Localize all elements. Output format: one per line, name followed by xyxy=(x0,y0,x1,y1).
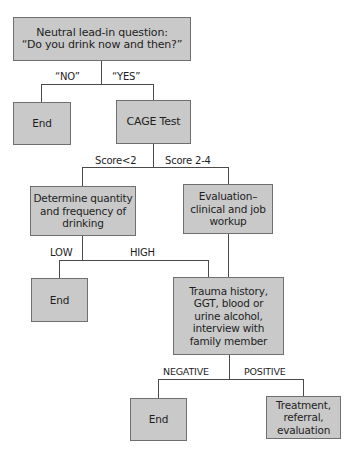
connector-to-end-negative xyxy=(158,379,159,398)
connector-evaluation-to-trauma xyxy=(228,234,229,277)
connector-leadin-down xyxy=(101,61,102,84)
connector-to-treatment xyxy=(303,379,304,396)
connector-to-end-low xyxy=(59,260,60,278)
edge-label-low: LOW xyxy=(50,247,72,259)
node-end-no: End xyxy=(13,102,71,145)
edge-label-positive: POSITIVE xyxy=(244,366,286,378)
edge-label-high: HIGH xyxy=(130,247,155,259)
connector-leadin-split xyxy=(41,84,154,85)
connector-trauma-down xyxy=(229,355,230,379)
connector-cage-split xyxy=(82,167,229,168)
node-evaluation-text: Evaluation– clinical and job workup xyxy=(190,190,266,228)
edge-label-yes: “YES” xyxy=(112,71,140,83)
node-end-negative: End xyxy=(130,398,187,441)
node-end-low-text: End xyxy=(50,294,69,307)
connector-to-cage xyxy=(153,84,154,100)
connector-to-end-no xyxy=(41,84,42,102)
node-determine-quantity: Determine quantity and frequency of drin… xyxy=(30,186,136,236)
edge-label-score-low: Score<2 xyxy=(95,155,136,167)
connector-determine-split xyxy=(59,260,209,261)
node-end-no-text: End xyxy=(32,117,51,130)
edge-label-no: “NO” xyxy=(55,71,80,83)
node-treatment: Treatment, referral, evaluation xyxy=(266,396,341,439)
node-end-low: End xyxy=(31,278,88,322)
node-lead-in-question-text: Neutral lead-in question: “Do you drink … xyxy=(22,27,183,52)
connector-high-to-trauma xyxy=(208,260,209,277)
node-end-negative-text: End xyxy=(149,413,168,426)
connector-trauma-split xyxy=(158,379,304,380)
connector-to-evaluation xyxy=(228,167,229,184)
edge-label-score-high: Score 2-4 xyxy=(165,155,211,167)
node-treatment-text: Treatment, referral, evaluation xyxy=(276,399,331,437)
node-determine-quantity-text: Determine quantity and frequency of drin… xyxy=(33,192,132,230)
node-evaluation: Evaluation– clinical and job workup xyxy=(183,184,273,234)
node-cage-test-text: CAGE Test xyxy=(127,116,181,129)
edge-label-negative: NEGATIVE xyxy=(163,366,209,378)
node-cage-test: CAGE Test xyxy=(116,100,191,144)
node-trauma-history-text: Trauma history, GGT, blood or urine alco… xyxy=(189,285,268,348)
connector-determine-down xyxy=(82,236,83,260)
connector-to-determine xyxy=(82,167,83,186)
connector-cage-down xyxy=(153,144,154,167)
node-trauma-history: Trauma history, GGT, blood or urine alco… xyxy=(173,277,284,355)
node-lead-in-question: Neutral lead-in question: “Do you drink … xyxy=(13,17,191,61)
